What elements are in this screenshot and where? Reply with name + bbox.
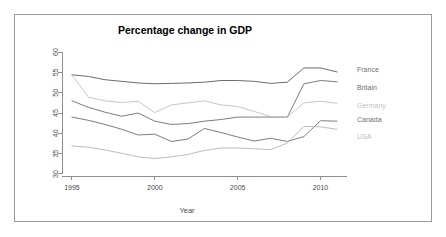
series-label-germany: Germany bbox=[357, 102, 386, 110]
figure-border: Percentage change in GDP 30354045505560 … bbox=[14, 14, 432, 222]
x-tick-label: 2005 bbox=[230, 184, 246, 191]
series-label-france: France bbox=[357, 66, 379, 73]
x-tick-label: 2010 bbox=[313, 184, 329, 191]
series-line-germany bbox=[72, 75, 337, 117]
y-tick-label: 40 bbox=[52, 129, 59, 137]
y-tick-label: 30 bbox=[52, 170, 59, 178]
x-tick-label: 1995 bbox=[64, 184, 80, 191]
y-tick-label: 35 bbox=[52, 150, 59, 158]
series-label-canada: Canada bbox=[357, 116, 382, 123]
figure-root: Percentage change in GDP 30354045505560 … bbox=[0, 0, 446, 237]
x-tick-label: 2000 bbox=[147, 184, 163, 191]
series-lines bbox=[72, 68, 337, 159]
series-line-britain bbox=[72, 81, 337, 125]
series-labels: FranceBritainGermanyCanadaUSA bbox=[357, 66, 386, 140]
y-tick-label: 50 bbox=[52, 89, 59, 97]
series-label-britain: Britain bbox=[357, 84, 377, 91]
y-axis: 30354045505560 bbox=[52, 48, 63, 178]
x-axis-title: Year bbox=[179, 206, 195, 215]
series-line-usa bbox=[72, 126, 337, 158]
series-label-usa: USA bbox=[357, 133, 372, 140]
y-tick-label: 55 bbox=[52, 68, 59, 76]
gdp-line-chart: Percentage change in GDP 30354045505560 … bbox=[15, 15, 431, 221]
chart-title: Percentage change in GDP bbox=[118, 24, 252, 36]
x-axis: 1995200020052010 bbox=[62, 176, 347, 191]
y-tick-label: 45 bbox=[52, 109, 59, 117]
series-line-france bbox=[72, 68, 337, 84]
y-tick-label: 60 bbox=[52, 48, 59, 56]
